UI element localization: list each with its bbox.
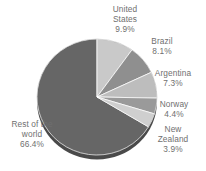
- pie-label-argentina-line1: Argentina: [142, 68, 204, 78]
- pie-label-brazil-value: 8.1%: [134, 46, 190, 56]
- pie-label-brazil: Brazil 8.1%: [134, 36, 190, 56]
- pie-label-norway-value: 4.4%: [145, 109, 203, 119]
- pie-label-rest-of-world: Rest of the world 66.4%: [2, 119, 62, 150]
- pie-label-new-zealand: New Zealand 3.9%: [144, 124, 202, 155]
- pie-label-united-states: United States 9.9%: [96, 4, 154, 35]
- pie-label-united-states-line2: States: [96, 14, 154, 24]
- pie-label-united-states-value: 9.9%: [96, 24, 154, 34]
- pie-label-united-states-line1: United: [96, 4, 154, 14]
- pie-label-norway: Norway 4.4%: [145, 99, 203, 119]
- pie-label-argentina: Argentina 7.3%: [142, 68, 204, 88]
- pie-label-new-zealand-line1: New: [144, 124, 202, 134]
- pie-label-argentina-value: 7.3%: [142, 78, 204, 88]
- pie-label-new-zealand-value: 3.9%: [144, 144, 202, 154]
- pie-label-norway-line1: Norway: [145, 99, 203, 109]
- pie-label-new-zealand-line2: Zealand: [144, 134, 202, 144]
- pie-label-rest-of-world-value: 66.4%: [2, 139, 62, 149]
- pie-label-rest-of-world-line1: Rest of the: [2, 119, 62, 129]
- pie-label-rest-of-world-line2: world: [2, 129, 62, 139]
- pie-label-brazil-line1: Brazil: [134, 36, 190, 46]
- pie-chart: United States 9.9% Brazil 8.1% Argentina…: [0, 0, 206, 171]
